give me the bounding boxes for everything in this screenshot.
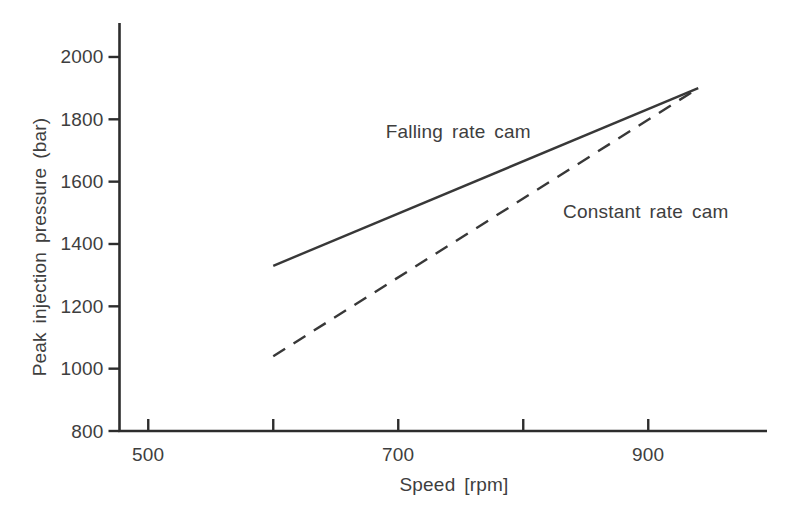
y-tick-label-800: 800	[71, 421, 103, 442]
y-tick-label-1600: 1600	[60, 171, 103, 192]
x-tick-label-500: 500	[132, 444, 164, 465]
x-axis-title: Speed [rpm]	[399, 474, 508, 496]
x-tick-label-700: 700	[382, 444, 414, 465]
y-axis-title: Peak injection pressure (bar)	[29, 118, 51, 377]
axis-spine	[120, 23, 768, 431]
y-tick-label-2000: 2000	[60, 46, 103, 67]
chart-canvas: 500700900800100012001400160018002000	[0, 0, 794, 523]
series-line-falling-rate-cam	[273, 88, 698, 266]
series-label-falling-rate-cam: Falling rate cam	[386, 121, 531, 143]
y-tick-label-1000: 1000	[60, 358, 103, 379]
y-tick-label-1200: 1200	[60, 296, 103, 317]
y-tick-label-1800: 1800	[60, 109, 103, 130]
x-tick-label-900: 900	[632, 444, 664, 465]
series-label-constant-rate-cam: Constant rate cam	[563, 201, 728, 223]
chart-figure: 500700900800100012001400160018002000 Pea…	[0, 0, 794, 523]
y-tick-label-1400: 1400	[60, 233, 103, 254]
